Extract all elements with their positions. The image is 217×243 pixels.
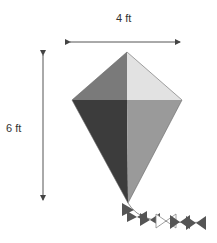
kite-body: [72, 52, 182, 203]
kite-tail: [122, 203, 206, 230]
width-label: 4 ft: [116, 12, 131, 24]
height-label: 6 ft: [6, 122, 21, 134]
tail-bow-icon: [186, 216, 206, 230]
kite-diagram: [0, 0, 217, 243]
